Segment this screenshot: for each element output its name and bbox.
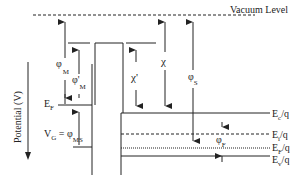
phi-s-label: φS (188, 71, 198, 87)
phi-f-label: φF (216, 134, 226, 149)
ev-label: Ev/q (272, 154, 289, 168)
chi-prime-label: χ' (130, 71, 138, 83)
ec-label: Ec/q (272, 108, 289, 122)
potential-axis-label: Potential (V) (12, 91, 24, 143)
chi-label: χ (160, 55, 166, 67)
ei-label: Ei/q (272, 129, 288, 143)
vg-phi-ms-label: VG = φMS (44, 128, 83, 144)
metal-fermi-label: EF (44, 98, 54, 112)
vacuum-level-label: Vacuum Level (230, 4, 288, 15)
band-diagram: Vacuum Level Potential (V) EF φM φ'M VG … (0, 0, 303, 183)
potential-axis-arrow-icon (25, 152, 31, 160)
